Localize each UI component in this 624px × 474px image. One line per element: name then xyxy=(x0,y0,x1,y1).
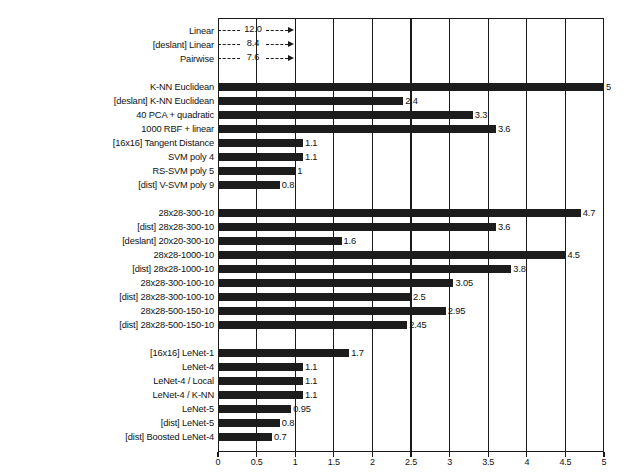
chart-row: LeNet-4 / K-NN1.1 xyxy=(0,388,624,402)
bar xyxy=(218,321,407,329)
row-label: [dist] 28x28-300-100-10 xyxy=(119,290,214,304)
x-tick-label: 1 xyxy=(293,457,298,467)
bar-value-label: 4.7 xyxy=(581,206,595,220)
row-label: LeNet-4 / Local xyxy=(153,374,214,388)
chart-row: [dist] LeNet-50.8 xyxy=(0,416,624,430)
chart-row: LeNet-50.95 xyxy=(0,402,624,416)
bar-value-label: 0.8 xyxy=(280,178,294,192)
bar xyxy=(218,181,280,189)
bar xyxy=(218,111,473,119)
chart-row: 28x28-500-150-102.95 xyxy=(0,304,624,318)
bar xyxy=(218,209,581,217)
chart-row: [deslant] K-NN Euclidean2.4 xyxy=(0,94,624,108)
bar-value-label: 0.7 xyxy=(272,430,286,444)
bar-value-label: 3.6 xyxy=(496,220,510,234)
bar xyxy=(218,279,453,287)
bar-value-label: 3.8 xyxy=(511,262,525,276)
x-tick-label: 3.5 xyxy=(482,457,494,467)
bar-value-label: 5 xyxy=(604,80,611,94)
bar xyxy=(218,153,303,161)
chart-row: 28x28-300-104.7 xyxy=(0,206,624,220)
row-label: [dist] 28x28-500-150-10 xyxy=(119,318,214,332)
arrow-right-icon xyxy=(288,55,294,61)
bar xyxy=(218,307,446,315)
chart-row: [dist] V-SVM poly 90.8 xyxy=(0,178,624,192)
bar xyxy=(218,83,604,91)
x-tick-label: 2 xyxy=(370,457,375,467)
chart-row: K-NN Euclidean5 xyxy=(0,80,624,94)
offscale-value-label: 7.6 xyxy=(240,50,266,64)
bar-value-label: 0.8 xyxy=(280,416,294,430)
bar-value-label: 0.95 xyxy=(291,402,311,416)
x-tick-label: 0.5 xyxy=(251,457,263,467)
row-label: [dist] 28x28-300-10 xyxy=(137,220,214,234)
offscale-indicator: 12.0 xyxy=(218,30,286,32)
bar-value-label: 4.5 xyxy=(565,248,579,262)
bar xyxy=(218,251,565,259)
offscale-indicator: 8.4 xyxy=(218,44,286,46)
chart-row: Pairwise7.6 xyxy=(0,52,624,66)
offscale-value-label: 8.4 xyxy=(240,36,266,50)
dashed-segment xyxy=(266,44,288,45)
chart-row: [deslant] 20x20-300-101.6 xyxy=(0,234,624,248)
row-label: LeNet-4 / K-NN xyxy=(153,388,214,402)
row-label: 28x28-300-10 xyxy=(158,206,214,220)
row-label: [dist] 28x28-1000-10 xyxy=(132,262,214,276)
bar-value-label: 3.3 xyxy=(473,108,487,122)
bar-value-label: 3.05 xyxy=(453,276,473,290)
error-rate-bar-chart: 00.511.522.533.544.55 Linear12.0[deslant… xyxy=(0,0,624,474)
row-label: 40 PCA + quadratic xyxy=(136,108,214,122)
row-label: 28x28-1000-10 xyxy=(153,248,214,262)
bar xyxy=(218,293,411,301)
chart-row: [deslant] Linear8.4 xyxy=(0,38,624,52)
dashed-segment xyxy=(266,30,288,31)
bar-value-label: 1.7 xyxy=(349,346,363,360)
dashed-segment xyxy=(218,30,240,31)
chart-row: [16x16] Tangent Distance1.1 xyxy=(0,136,624,150)
bar xyxy=(218,377,303,385)
row-label: [deslant] 20x20-300-10 xyxy=(122,234,214,248)
x-tick-label: 0 xyxy=(216,457,221,467)
chart-row: 1000 RBF + linear3.6 xyxy=(0,122,624,136)
offscale-value-label: 12.0 xyxy=(240,22,266,36)
bar-value-label: 1.1 xyxy=(303,388,317,402)
row-label: 28x28-300-100-10 xyxy=(140,276,214,290)
chart-row: RS-SVM poly 51 xyxy=(0,164,624,178)
chart-row: [dist] 28x28-500-150-102.45 xyxy=(0,318,624,332)
row-label: LeNet-5 xyxy=(182,402,214,416)
x-tick-label: 2.5 xyxy=(405,457,417,467)
chart-row: [dist] Boosted LeNet-40.7 xyxy=(0,430,624,444)
bar-value-label: 3.6 xyxy=(496,122,510,136)
row-label: K-NN Euclidean xyxy=(150,80,214,94)
bar-value-label: 1 xyxy=(295,164,302,178)
bar xyxy=(218,97,403,105)
row-label: RS-SVM poly 5 xyxy=(152,164,214,178)
row-label: 1000 RBF + linear xyxy=(141,122,214,136)
row-label: [16x16] Tangent Distance xyxy=(113,136,214,150)
row-label: [dist] V-SVM poly 9 xyxy=(138,178,214,192)
row-label: [deslant] Linear xyxy=(153,38,214,52)
row-label: LeNet-4 xyxy=(182,360,214,374)
chart-row: 40 PCA + quadratic3.3 xyxy=(0,108,624,122)
row-label: Pairwise xyxy=(180,52,214,66)
offscale-indicator: 7.6 xyxy=(218,58,286,60)
bar-value-label: 2.5 xyxy=(411,290,425,304)
x-tick-label: 4 xyxy=(524,457,529,467)
chart-row: LeNet-4 / Local1.1 xyxy=(0,374,624,388)
chart-row: SVM poly 41.1 xyxy=(0,150,624,164)
chart-row: LeNet-41.1 xyxy=(0,360,624,374)
row-label: SVM poly 4 xyxy=(168,150,214,164)
dashed-segment xyxy=(266,58,288,59)
chart-row: [16x16] LeNet-11.7 xyxy=(0,346,624,360)
chart-row: 28x28-300-100-103.05 xyxy=(0,276,624,290)
bar xyxy=(218,167,295,175)
bar xyxy=(218,237,342,245)
bar-value-label: 1.1 xyxy=(303,374,317,388)
row-label: [dist] LeNet-5 xyxy=(161,416,214,430)
x-tick-label: 3 xyxy=(447,457,452,467)
row-label: Linear xyxy=(189,24,214,38)
x-tick-label: 4.5 xyxy=(559,457,571,467)
chart-row: [dist] 28x28-1000-103.8 xyxy=(0,262,624,276)
chart-row: 28x28-1000-104.5 xyxy=(0,248,624,262)
bar xyxy=(218,433,272,441)
